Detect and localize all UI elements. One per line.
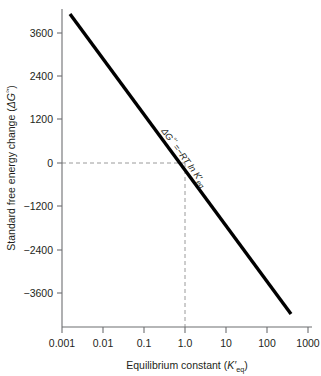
y-tick-label: 2400 [30,70,54,82]
y-axis-title-prefix: Standard free energy change ( [5,108,17,251]
y-tick-label: −3600 [24,287,54,299]
y-tick-label: 0 [47,157,53,169]
x-axis-title-prefix: Equilibrium constant ( [126,359,227,371]
x-tick-label: 0.01 [93,337,114,349]
svg-text:Standard free energy change (Δ: Standard free energy change (ΔG°′) [5,85,17,250]
y-axis-title-symbol: ΔG [5,93,17,109]
x-tick-label: 10 [220,337,232,349]
y-tick-label: 3600 [30,27,54,39]
x-tick-label: 0.001 [49,337,75,349]
x-axis-title-subscript: eq [236,365,244,374]
chart-figure: 3600 2400 1200 0 −1200 −2400 −3600 0.001… [0,0,321,376]
x-tick-label: 0.1 [137,337,152,349]
y-axis-title-suffix: ) [5,85,17,89]
y-tick-label: 1200 [30,113,54,125]
x-tick-label: 100 [258,337,276,349]
y-axis-title: Standard free energy change (ΔG°′) [5,85,17,250]
x-tick-label: 1000 [296,337,320,349]
y-tick-label: −1200 [24,200,54,212]
x-axis-title-suffix: ) [244,359,248,371]
free-energy-vs-keq-chart: 3600 2400 1200 0 −1200 −2400 −3600 0.001… [0,0,321,376]
x-tick-label: 1.0 [178,337,193,349]
y-tick-label: −2400 [24,244,54,256]
chart-background [0,0,321,376]
